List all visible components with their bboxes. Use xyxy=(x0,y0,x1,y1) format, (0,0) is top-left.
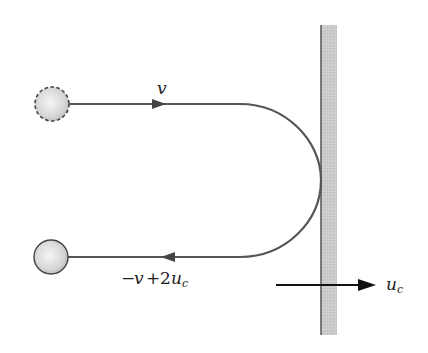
u-symbol: u xyxy=(171,268,182,288)
wall-body xyxy=(321,25,337,335)
wall-velocity-label: u c xyxy=(386,274,403,296)
ball-trajectory xyxy=(67,104,321,257)
incoming-velocity-label: v xyxy=(157,78,167,98)
coefficient-two: 2 xyxy=(160,268,171,288)
final-ball xyxy=(34,240,68,274)
u-subscript: c xyxy=(182,277,188,290)
outgoing-arrowhead-icon xyxy=(161,252,175,262)
wall xyxy=(321,25,337,335)
diagram-canvas: v − v + 2 u c u c xyxy=(0,0,428,353)
wall-u-symbol: u xyxy=(386,274,397,294)
initial-ball xyxy=(35,87,69,121)
incoming-arrowhead-icon xyxy=(152,99,166,109)
plus-sign: + xyxy=(146,268,160,288)
v-symbol: v xyxy=(134,268,144,288)
wall-u-subscript: c xyxy=(397,283,403,296)
wall-velocity-arrowhead-icon xyxy=(358,279,376,291)
outgoing-velocity-label: − v + 2 u c xyxy=(121,268,188,290)
